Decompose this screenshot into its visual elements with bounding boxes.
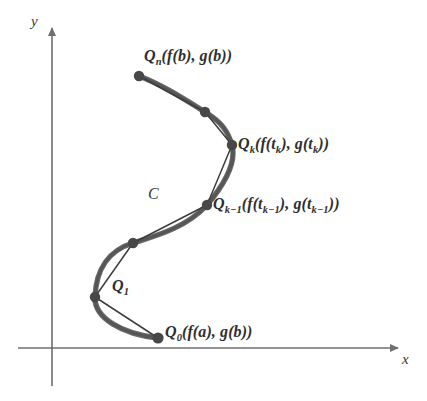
point-node-Qn-1: [200, 107, 210, 117]
point-label-Qkm1-rest: (f(t: [242, 195, 263, 212]
point-label-Qkm1-rest3: )): [329, 195, 340, 212]
point-label-Qn: Qn(f(b), g(b)): [144, 48, 232, 68]
point-label-Qk-minus-1: Qk−1(f(tk−1), g(tk−1)): [213, 196, 340, 216]
point-label-Qkm1-base: Q: [213, 195, 225, 212]
point-node-Q0: [152, 332, 163, 343]
point-label-Qk: Qk(f(tk), g(tk)): [238, 136, 329, 156]
point-node-Qk-1: [202, 200, 212, 210]
figure-container: y x C Qn(f(b), g(b)) Qk(f(tk), g(tk)) Qk…: [0, 0, 427, 401]
point-label-Qkm1-sub: k−1: [225, 204, 242, 215]
point-label-Qk-rest2: ), g(t: [281, 135, 313, 152]
point-node-Q2: [128, 238, 138, 248]
point-node-Qn: [134, 71, 144, 81]
x-axis-label: x: [402, 352, 409, 367]
point-label-Q1: Q1: [112, 278, 129, 298]
point-label-Qkm1-sub2: k−1: [263, 204, 280, 215]
point-label-Qk-rest3: )): [318, 135, 329, 152]
point-label-Q0-rest: (f(a), g(b)): [182, 323, 253, 340]
point-label-Qkm1-sub3: k−1: [312, 204, 329, 215]
point-label-Q0-base: Q: [165, 323, 177, 340]
point-label-Qn-base: Q: [144, 47, 156, 64]
point-label-Qkm1-rest2: ), g(t: [280, 195, 312, 212]
point-label-Q1-base: Q: [112, 277, 124, 294]
point-label-Q0: Q0(f(a), g(b)): [165, 324, 253, 344]
point-label-Qk-base: Q: [238, 135, 250, 152]
point-node-Q1: [90, 292, 100, 302]
point-label-Q1-sub: 1: [124, 286, 129, 297]
point-label-Qk-rest: (f(t: [255, 135, 276, 152]
point-label-Qn-rest: (f(b), g(b)): [162, 47, 233, 64]
point-node-Qk: [227, 140, 237, 150]
curve-label-c: C: [148, 186, 159, 202]
y-axis-label: y: [31, 14, 38, 29]
